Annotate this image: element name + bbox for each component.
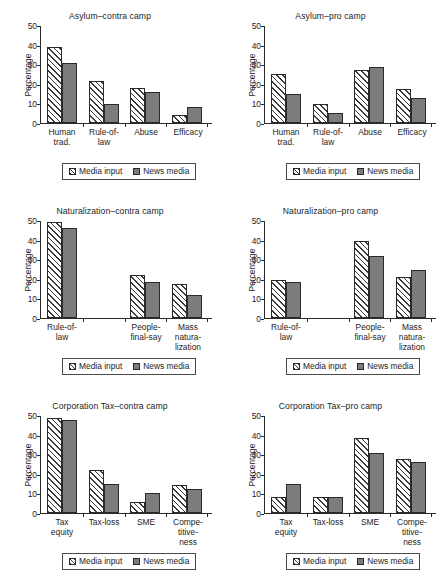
x-tick-marks	[41, 123, 208, 124]
y-tick-label: 40	[252, 431, 261, 441]
y-tick-label: 20	[28, 80, 37, 90]
legend-label: News media	[143, 361, 189, 371]
x-tick-mark	[349, 513, 350, 517]
hatched-swatch-icon	[293, 558, 300, 565]
y-tick-mark	[261, 514, 264, 515]
x-axis-labels: Rule-of-lawPeople-final-sayMassnatura-li…	[41, 323, 209, 352]
y-tick-label: 40	[28, 431, 37, 441]
x-axis-label: Massnatura-lization	[391, 323, 433, 352]
bar-group	[83, 221, 125, 318]
x-axis-label: Rule-of-law	[83, 128, 125, 148]
x-axis-label-line: equity	[41, 528, 83, 538]
bar-groups	[265, 221, 432, 318]
x-axis-label: Taxequity	[265, 518, 307, 547]
y-tick-mark	[261, 260, 264, 261]
x-axis-label: Rule-of-law	[307, 128, 349, 148]
bar-group	[390, 26, 432, 123]
chart-legend: Media inputNews media	[286, 553, 420, 570]
legend-item-news-media: News media	[357, 361, 413, 371]
bar-groups	[41, 221, 208, 318]
x-axis-labels: Rule-of-lawPeople-final-sayMassnatura-li…	[265, 323, 433, 352]
bar-news-media	[286, 484, 301, 513]
bar-news-media	[411, 462, 426, 513]
x-tick-mark	[349, 318, 350, 322]
x-axis-label-line: Abuse	[349, 128, 391, 138]
bar-group	[265, 221, 307, 318]
bar-media-input	[172, 485, 187, 513]
bar-news-media	[328, 497, 343, 513]
y-tick-mark	[37, 65, 40, 66]
y-tick-mark	[261, 241, 264, 242]
x-axis-labels: Humantrad.Rule-of-lawAbuseEfficacy	[265, 128, 433, 148]
chart-panel-5: Corporation Tax–pro campPercentage010203…	[220, 390, 441, 586]
bar-group	[265, 416, 307, 513]
x-axis-label-line: SME	[125, 518, 167, 528]
chart-panel-4: Corporation Tax–contra campPercentage010…	[0, 390, 220, 586]
bar-media-input	[396, 89, 411, 123]
chart-panel-3: Naturalization–pro campPercentage0102030…	[220, 195, 441, 390]
legend-item-media-input: Media input	[293, 166, 346, 176]
bar-media-input	[89, 470, 104, 513]
x-tick-mark	[166, 123, 167, 127]
x-axis-label: Abuse	[125, 128, 167, 148]
y-tick-mark	[261, 280, 264, 281]
chart-title: Corporation Tax–pro camp	[220, 401, 441, 411]
y-tick-mark	[261, 436, 264, 437]
y-tick-mark	[37, 416, 40, 417]
y-tick-label: 10	[28, 99, 37, 109]
x-axis-label: SME	[349, 518, 391, 547]
x-tick-mark	[166, 513, 167, 517]
x-tick-mark	[390, 513, 391, 517]
y-tick-label: 20	[252, 80, 261, 90]
y-tick-label: 40	[252, 236, 261, 246]
hatched-swatch-icon	[69, 558, 76, 565]
bar-media-input	[172, 284, 187, 318]
x-axis-label-line: trad.	[265, 138, 307, 148]
x-tick-mark	[431, 513, 432, 517]
x-axis-label: Abuse	[349, 128, 391, 148]
x-axis-labels: TaxequityTax-lossSMECompe-titive-ness	[41, 518, 209, 547]
bar-group	[166, 26, 208, 123]
y-tick-mark	[37, 455, 40, 456]
y-tick-mark	[37, 494, 40, 495]
plot-area: Percentage01020304050	[264, 26, 432, 124]
bar-media-input	[271, 74, 286, 123]
y-tick-label: 30	[252, 450, 261, 460]
x-axis-label: People-final-say	[125, 323, 167, 352]
bar-news-media	[369, 256, 384, 318]
bar-news-media	[145, 282, 160, 318]
legend-label: Media input	[79, 166, 122, 176]
x-tick-mark	[207, 318, 208, 322]
x-axis-label: People-final-say	[349, 323, 391, 352]
x-tick-marks	[41, 513, 208, 514]
legend-item-media-input: Media input	[293, 556, 346, 566]
bar-media-input	[172, 115, 187, 123]
bar-news-media	[187, 107, 202, 123]
x-tick-mark	[390, 123, 391, 127]
x-tick-mark	[207, 513, 208, 517]
x-axis-label: Tax-loss	[307, 518, 349, 547]
chart-title: Asylum–pro camp	[220, 11, 441, 21]
x-axis-label: Humantrad.	[41, 128, 83, 148]
y-tick-mark	[261, 46, 264, 47]
x-axis-label-line: lization	[167, 343, 209, 353]
bar-group	[83, 416, 125, 513]
plot-area: Percentage01020304050	[264, 221, 432, 319]
y-tick-label: 30	[252, 255, 261, 265]
x-tick-mark	[83, 123, 84, 127]
y-tick-label: 10	[252, 489, 261, 499]
bar-news-media	[187, 295, 202, 318]
bar-news-media	[145, 493, 160, 513]
x-axis-labels: TaxequityTax-lossSMECompe-titive-ness	[265, 518, 433, 547]
x-axis-label: SME	[125, 518, 167, 547]
legend-label: Media input	[79, 556, 122, 566]
bar-media-input	[47, 418, 62, 513]
x-axis-label: Efficacy	[167, 128, 209, 148]
y-tick-mark	[37, 280, 40, 281]
plot-area: Percentage01020304050	[264, 416, 432, 514]
bar-news-media	[369, 453, 384, 513]
x-tick-mark	[166, 318, 167, 322]
bar-group	[41, 221, 83, 318]
bar-group	[307, 221, 349, 318]
legend-label: Media input	[79, 361, 122, 371]
